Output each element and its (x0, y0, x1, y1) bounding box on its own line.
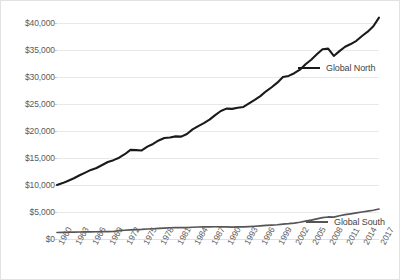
x-axis: 1960196319661969197219751978198119841987… (57, 239, 379, 280)
series-line-global-north (57, 18, 379, 185)
x-tick-label: 2017 (379, 226, 396, 247)
y-tick-label: $15,000 (1, 154, 55, 162)
y-tick-label: $25,000 (1, 100, 55, 108)
legend-swatch-global-north (298, 67, 320, 69)
legend-item-global-south: Global South (306, 217, 385, 227)
y-tick-label: $40,000 (1, 19, 55, 27)
y-tick-label: $10,000 (1, 181, 55, 189)
legend-swatch-global-south (306, 221, 328, 223)
y-tick-label: $35,000 (1, 46, 55, 54)
y-tick-label: $0 (1, 235, 55, 243)
plot-area (57, 23, 379, 239)
y-tick-label: $20,000 (1, 127, 55, 135)
y-axis: $0$5,000$10,000$15,000$20,000$25,000$30,… (1, 23, 55, 239)
series-svg (57, 23, 379, 239)
legend-label-global-north: Global North (326, 63, 375, 73)
legend-label-global-south: Global South (334, 217, 385, 227)
y-tick-label: $30,000 (1, 73, 55, 81)
legend-item-global-north: Global North (298, 63, 375, 73)
chart-card: $0$5,000$10,000$15,000$20,000$25,000$30,… (0, 0, 400, 280)
y-tick-label: $5,000 (1, 208, 55, 216)
